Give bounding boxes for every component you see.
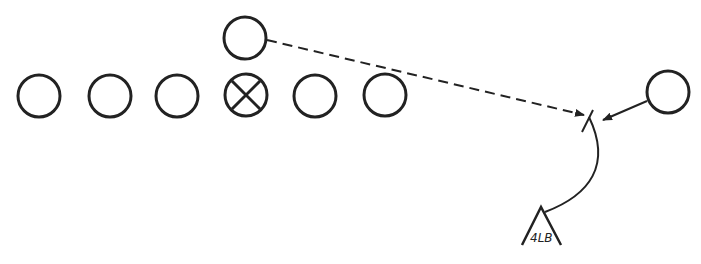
player-5-icon bbox=[294, 75, 336, 117]
wide-player-icon bbox=[647, 71, 689, 113]
wide-route-line bbox=[603, 101, 647, 120]
play-diagram: 4LB bbox=[0, 0, 701, 264]
center-icon bbox=[225, 74, 267, 116]
player-2-icon bbox=[89, 75, 131, 117]
player-1-icon bbox=[18, 75, 60, 117]
player-6-icon bbox=[364, 74, 406, 116]
dashed-route-line bbox=[267, 40, 584, 115]
back-player-icon bbox=[224, 17, 266, 59]
linebacker-icon: 4LB bbox=[522, 207, 561, 245]
linebacker-route-curve bbox=[545, 117, 598, 212]
player-3-icon bbox=[156, 75, 198, 117]
linebacker-label: 4LB bbox=[530, 231, 553, 245]
